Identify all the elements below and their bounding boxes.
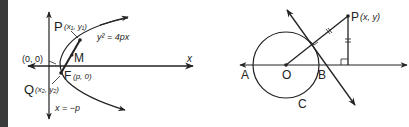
diagram-canvas: P (x₁, y₁) y² = 4px (0, 0) M x F (p, 0) … [0,0,409,127]
label-O: O [282,68,291,82]
label-F-coords: (p, 0) [73,72,92,81]
point-F-dot [59,71,63,75]
point-O-dot [284,63,288,67]
origin-label: (0, 0) [22,54,43,64]
equation-label: y² = 4px [96,32,130,42]
x-axis-label: x [186,53,193,64]
label-P-right-coords: (x, y) [360,12,380,22]
parabola-figure: P (x₁, y₁) y² = 4px (0, 0) M x F (p, 0) … [22,12,193,119]
segment-OP [286,16,348,65]
label-P: P [54,19,63,34]
label-Q-coords: (x₂, y₂) [35,85,59,94]
circle-figure: P (x, y) A O B C [240,10,407,111]
point-P-dot [78,38,82,42]
label-F: F [64,69,71,83]
label-P-right: P [351,10,359,24]
label-M: M [74,51,84,65]
label-A: A [241,68,249,82]
point-P-dot-right [346,14,350,18]
label-P-coords: (x₁, y₁) [64,22,87,31]
label-C: C [298,97,307,111]
tangent-line [287,10,355,105]
label-Q: Q [24,82,34,97]
directrix-label: x = −p [54,103,80,113]
label-B: B [318,68,326,82]
parabola-upper-arrow [100,17,128,25]
